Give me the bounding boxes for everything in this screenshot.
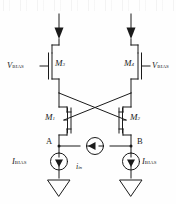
transistor-m3-label: M3	[55, 59, 65, 68]
transistor-m4-label: M4	[124, 59, 134, 68]
cross-couple-wiring	[59, 93, 131, 120]
node-b-label: B	[137, 137, 143, 146]
ibias-right-source	[123, 146, 140, 178]
transistor-m1	[59, 107, 71, 146]
iin-label: iin	[76, 163, 82, 171]
ibias-right-label: IBIAS	[142, 157, 157, 166]
ibias-left-label: IBIAS	[12, 157, 27, 166]
node-a-label: A	[46, 137, 52, 146]
ground-left	[48, 180, 70, 196]
ground-right	[120, 180, 142, 196]
supply-arrow-right	[127, 14, 136, 39]
transistor-m1-label: M1	[45, 113, 55, 122]
schematic-canvas	[0, 0, 176, 204]
vbias-left-label: VBIAS	[7, 61, 24, 70]
iin-current-source	[87, 138, 104, 155]
transistor-m2-label: M2	[130, 113, 140, 122]
supply-arrow-left	[55, 14, 64, 39]
vbias-right-label: VBIAS	[152, 61, 169, 70]
circuit-diagram: VBIAS VBIAS M3 M4 M1 M2 A B IBIAS IBIAS …	[0, 0, 176, 204]
ibias-left-source	[51, 146, 68, 178]
